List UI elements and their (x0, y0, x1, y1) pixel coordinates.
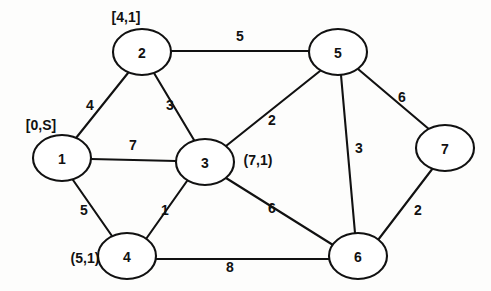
edge-weight-1-3: 7 (129, 138, 137, 152)
node-label-1: 1 (58, 151, 66, 167)
graph-node-5[interactable]: 5 (309, 29, 367, 75)
graph-edge-5-6 (341, 75, 355, 233)
graph-edge-1-3 (91, 159, 176, 161)
edge-weight-6-7: 2 (414, 203, 422, 217)
graph-svg: 1234567 (0, 0, 491, 291)
annot-node-1: [0,S] (26, 118, 56, 132)
graph-node-2[interactable]: 2 (113, 29, 171, 75)
node-label-2: 2 (138, 45, 146, 61)
graph-edge-6-7 (378, 168, 433, 240)
graph-node-4[interactable]: 4 (98, 233, 156, 279)
node-label-6: 6 (354, 249, 362, 265)
annot-node-4: (5,1) (71, 251, 100, 265)
graph-edge-1-4 (73, 180, 112, 236)
graph-node-3[interactable]: 3 (176, 139, 234, 185)
edge-weight-3-4: 1 (161, 203, 169, 217)
graph-edge-3-5 (226, 71, 320, 146)
edge-weight-3-5: 2 (268, 113, 276, 127)
graph-node-7[interactable]: 7 (416, 125, 474, 171)
node-label-3: 3 (201, 155, 209, 171)
annot-node-3: (7,1) (244, 153, 273, 167)
node-label-4: 4 (123, 249, 131, 265)
graph-node-6[interactable]: 6 (329, 233, 387, 279)
edge-weight-5-6: 3 (355, 141, 363, 155)
graph-edge-5-7 (358, 69, 430, 130)
node-label-5: 5 (334, 45, 342, 61)
edge-weight-2-3: 3 (166, 98, 174, 112)
edge-weight-2-5: 5 (236, 29, 244, 43)
graph-edge-1-2 (76, 73, 128, 138)
edge-weight-1-4: 5 (80, 203, 88, 217)
annot-node-2: [4,1] (112, 10, 141, 24)
edge-weight-3-6: 6 (268, 201, 276, 215)
edge-weight-4-6: 8 (226, 260, 234, 274)
graph-edge-3-6 (226, 178, 333, 245)
edge-weight-5-7: 6 (398, 90, 406, 104)
edge-weight-1-2: 4 (86, 98, 94, 112)
graph-node-1[interactable]: 1 (33, 135, 91, 181)
node-label-7: 7 (441, 141, 449, 157)
graph-diagram-canvas: 1234567 435751266328 [0,S][4,1](7,1)(5,1… (0, 0, 491, 291)
